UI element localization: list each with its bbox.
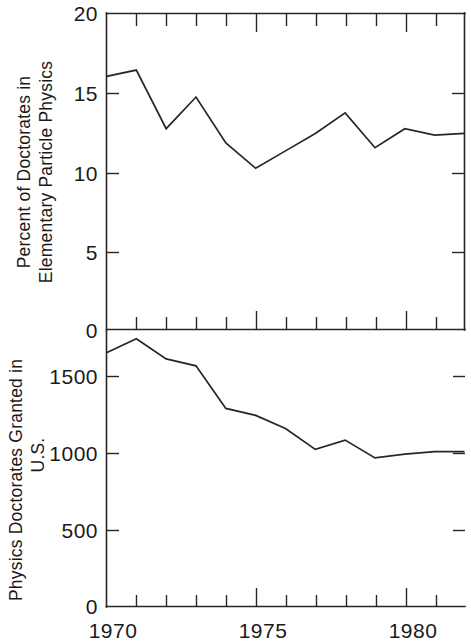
bottom-ytick-label-500: 500	[61, 519, 98, 542]
top-panel: 20 15 10 5 0 Percent of Doctorates in El…	[14, 2, 465, 342]
top-panel-right-yticks	[452, 94, 465, 253]
xtick-label-1970: 1970	[89, 619, 138, 642]
bottom-panel-xticks	[137, 588, 437, 607]
bottom-ytick-label-0: 0	[86, 595, 98, 618]
chart-canvas: 20 15 10 5 0 Percent of Doctorates in El…	[0, 0, 471, 642]
top-panel-left-yticks	[107, 94, 120, 253]
top-ytick-label-10: 10	[74, 162, 98, 185]
top-ytick-label-5: 5	[86, 241, 98, 264]
xtick-label-1980: 1980	[389, 619, 438, 642]
bottom-panel-left-yticks	[107, 377, 120, 531]
bottom-yaxis-title-line1: Physics Doctorates Granted in	[6, 359, 26, 601]
top-panel-data-line	[107, 70, 465, 168]
bottom-ytick-label-1000: 1000	[49, 442, 98, 465]
top-ytick-label-0: 0	[86, 319, 98, 342]
chart-figure: 20 15 10 5 0 Percent of Doctorates in El…	[0, 0, 471, 642]
top-ytick-label-20: 20	[74, 2, 98, 25]
bottom-yaxis-title-line2: U.S.	[28, 438, 48, 473]
bottom-panel-right-yticks	[453, 377, 465, 531]
bottom-panel-data-line	[107, 339, 465, 458]
top-panel-top-ticks	[137, 14, 437, 33]
top-yaxis-title-line1: Percent of Doctorates in	[14, 76, 34, 269]
top-ytick-label-15: 15	[74, 82, 98, 105]
xtick-label-1975: 1975	[239, 619, 288, 642]
top-panel-bottom-ticks	[137, 311, 437, 330]
top-yaxis-title-line2: Elementary Particle Physics	[36, 61, 56, 283]
bottom-panel: 1500 1000 500 0 Physics Doctorates Grant…	[6, 331, 465, 642]
bottom-ytick-label-1500: 1500	[49, 365, 98, 388]
